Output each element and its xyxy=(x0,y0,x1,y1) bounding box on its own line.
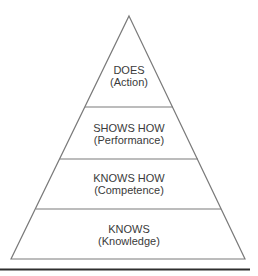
tier-does: DOES (Action) xyxy=(110,64,148,88)
tier-subtitle: (Action) xyxy=(110,76,148,88)
tier-subtitle: (Knowledge) xyxy=(98,235,160,247)
pyramid-diagram: DOES (Action) SHOWS HOW (Performance) KN… xyxy=(0,0,258,276)
tier-title: KNOWS HOW xyxy=(93,172,165,184)
tier-shows-how: SHOWS HOW (Performance) xyxy=(93,122,165,146)
tier-title: SHOWS HOW xyxy=(93,122,165,134)
tier-title: KNOWS xyxy=(108,223,150,235)
tier-knows-how: KNOWS HOW (Competence) xyxy=(93,172,165,196)
tier-subtitle: (Performance) xyxy=(94,134,164,146)
tier-title: DOES xyxy=(113,64,144,76)
tier-subtitle: (Competence) xyxy=(94,184,164,196)
